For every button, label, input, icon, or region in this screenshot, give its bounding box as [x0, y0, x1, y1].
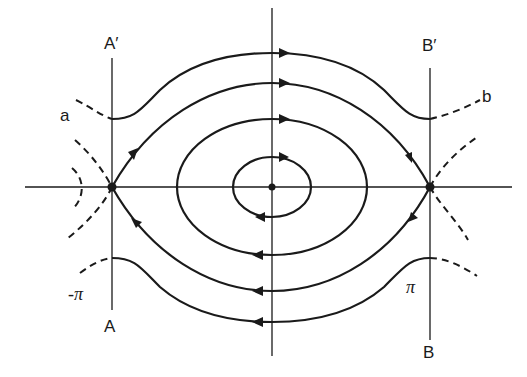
label-B-prime: B′ — [422, 36, 437, 55]
label-a: a — [60, 106, 70, 125]
phase-portrait-diagram: A′ B′ A B a b -π π — [0, 0, 527, 377]
label-A-prime: A′ — [104, 34, 119, 53]
upper-separatrix — [112, 83, 430, 187]
label-pi: π — [406, 277, 416, 297]
dashed-left-bottom — [80, 258, 112, 273]
arrow-rotating-top — [279, 48, 290, 58]
dashed-right-upper — [430, 138, 476, 187]
arrow-separatrix-top — [279, 78, 290, 88]
upper-rotating-orbit — [112, 53, 430, 119]
dashed-left-inner — [72, 168, 82, 210]
dashed-a — [76, 100, 112, 119]
arrow-middle-top — [279, 114, 290, 124]
dashed-right-lower — [430, 187, 468, 240]
center-point — [269, 184, 276, 191]
dashed-right-bottom — [430, 258, 477, 276]
label-neg-pi: -π — [68, 284, 84, 304]
lower-separatrix — [112, 187, 430, 291]
arrow-middle-bottom — [252, 250, 263, 260]
arrow-sep-right-upper — [405, 152, 412, 163]
label-A: A — [104, 317, 116, 336]
label-B: B — [423, 343, 434, 362]
dashed-left-lower — [68, 187, 112, 238]
arrow-separatrix-bottom — [252, 286, 263, 296]
arrow-rotating-bottom — [252, 317, 263, 327]
arrow-sep-left-upper — [128, 148, 138, 160]
dashed-b — [430, 100, 480, 119]
label-b: b — [482, 87, 491, 106]
